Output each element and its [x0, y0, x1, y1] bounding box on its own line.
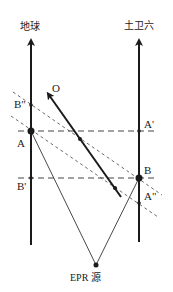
- event-B-dprime: [29, 103, 33, 107]
- A-dprime-label: A": [144, 191, 156, 202]
- event-A: [28, 128, 35, 135]
- titan-label: 土卫六: [124, 21, 154, 31]
- event-A-prime: [137, 129, 141, 133]
- A-prime-label: A': [144, 119, 154, 130]
- epr-source-label: EPR 源: [70, 273, 101, 283]
- O-label: O: [52, 83, 60, 94]
- earth-label: 地球: [20, 22, 40, 32]
- signal-to-A: [31, 131, 96, 265]
- B-label: B: [144, 165, 151, 176]
- epr-source-point: [94, 263, 99, 268]
- event-A-dprime: [137, 201, 141, 205]
- observer-point-1: [78, 137, 82, 141]
- A-label: A: [17, 138, 25, 149]
- B-prime-label: B': [17, 181, 26, 192]
- event-B: [136, 175, 143, 182]
- event-B-prime: [29, 176, 33, 180]
- observer-O-worldline: [49, 95, 121, 197]
- B-dprime-label: B": [14, 99, 26, 110]
- epr-diagram: [0, 0, 173, 292]
- observer-point-2: [113, 186, 117, 190]
